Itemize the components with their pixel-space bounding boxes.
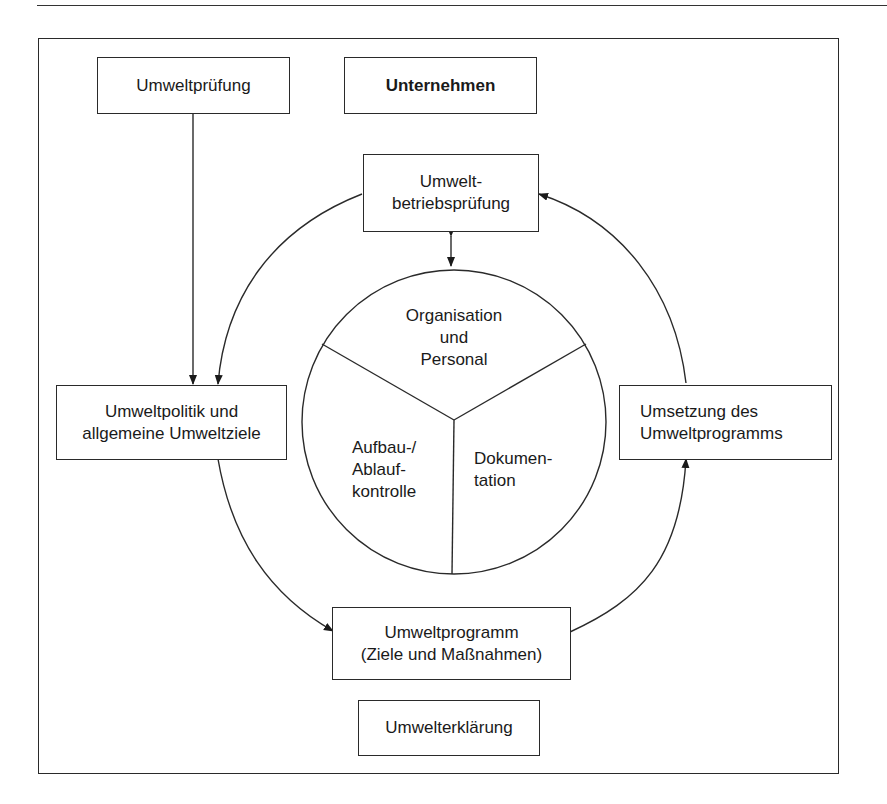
box-label: Umwelt- betriebsprüfung bbox=[392, 171, 510, 215]
box-umsetzung: Umsetzung des Umweltprogramms bbox=[619, 385, 832, 460]
box-umweltprogramm: Umweltprogramm (Ziele und Maßnahmen) bbox=[332, 607, 571, 680]
segment-organisation: Organisation und Personal bbox=[384, 305, 524, 371]
box-label: Umweltpolitik und allgemeine Umweltziele bbox=[82, 401, 261, 445]
box-umweltpruefung: Umweltprüfung bbox=[97, 57, 290, 114]
box-label: Umsetzung des Umweltprogramms bbox=[640, 401, 783, 445]
box-umweltpolitik: Umweltpolitik und allgemeine Umweltziele bbox=[56, 385, 287, 460]
box-label: Umwelterklärung bbox=[385, 717, 513, 739]
segment-aufbau-ablauf: Aufbau-/ Ablauf- kontrolle bbox=[352, 437, 452, 503]
box-label: Umweltprüfung bbox=[136, 75, 250, 97]
box-umweltbetriebspruefung: Umwelt- betriebsprüfung bbox=[363, 154, 539, 232]
box-label: Unternehmen bbox=[386, 75, 496, 97]
box-umwelterklaerung: Umwelterklärung bbox=[358, 700, 540, 756]
segment-dokumentation: Dokumen- tation bbox=[474, 448, 574, 492]
box-label: Umweltprogramm (Ziele und Maßnahmen) bbox=[361, 622, 542, 666]
box-unternehmen: Unternehmen bbox=[344, 57, 537, 114]
